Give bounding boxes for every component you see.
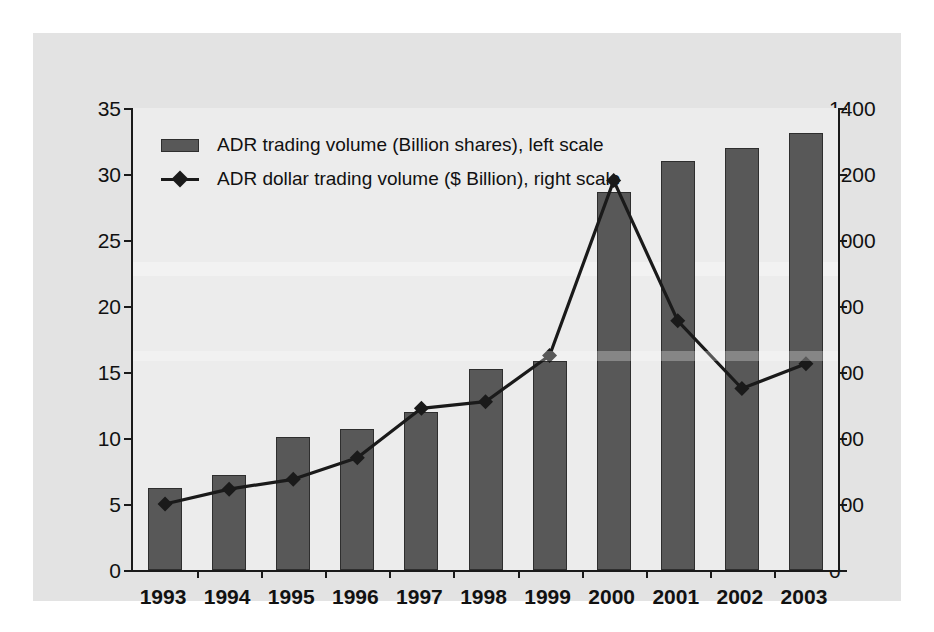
left-axis-label-5: 5: [109, 494, 121, 515]
bar-1999: [533, 361, 567, 570]
right-tick-800: [838, 306, 847, 308]
x-axis-label-2001: 2001: [652, 586, 699, 607]
left-tick-15: [124, 372, 133, 374]
x-axis-label-1997: 1997: [396, 586, 443, 607]
left-axis: 05101520253035: [33, 33, 121, 601]
left-axis-label-15: 15: [98, 362, 121, 383]
bar-2001: [661, 161, 695, 570]
bar-swatch-icon: [161, 139, 199, 152]
bar-1997: [404, 412, 438, 570]
right-tick-600: [838, 372, 847, 374]
left-tick-10: [124, 438, 133, 440]
x-axis-label-2003: 2003: [781, 586, 828, 607]
right-tick-400: [838, 438, 847, 440]
left-tick-30: [124, 174, 133, 176]
x-tick-9: [710, 570, 712, 578]
x-tick-4: [389, 570, 391, 578]
x-tick-8: [646, 570, 648, 578]
x-axis-label-1995: 1995: [268, 586, 315, 607]
legend-item-line-series: ADR dollar trading volume ($ Billion), r…: [161, 162, 620, 196]
x-tick-10: [774, 570, 776, 578]
bar-2002: [725, 148, 759, 570]
x-axis-label-1996: 1996: [332, 586, 379, 607]
right-tick-1000: [838, 240, 847, 242]
left-axis-label-35: 35: [98, 98, 121, 119]
bar-1994: [212, 475, 246, 570]
chart-panel: 05101520253035 0200400600800100012001400…: [33, 33, 901, 601]
chart-legend: ADR trading volume (Billion shares), lef…: [161, 128, 620, 196]
x-axis-label-2002: 2002: [717, 586, 764, 607]
bar-2000: [597, 192, 631, 570]
left-axis-label-25: 25: [98, 230, 121, 251]
line-diamond-swatch-icon: [161, 172, 199, 186]
right-tick-1200: [838, 174, 847, 176]
x-axis-label-1994: 1994: [204, 586, 251, 607]
left-tick-5: [124, 504, 133, 506]
x-tick-6: [518, 570, 520, 578]
left-axis-label-20: 20: [98, 296, 121, 317]
x-axis-label-2000: 2000: [588, 586, 635, 607]
x-tick-5: [453, 570, 455, 578]
x-tick-3: [325, 570, 327, 578]
bar-1998: [469, 369, 503, 570]
x-axis-label-1993: 1993: [140, 586, 187, 607]
left-tick-0: [124, 570, 133, 572]
right-tick-200: [838, 504, 847, 506]
right-tick-1400: [838, 108, 847, 110]
left-axis-label-30: 30: [98, 164, 121, 185]
x-axis-label-1999: 1999: [524, 586, 571, 607]
legend-label-bar-series: ADR trading volume (Billion shares), lef…: [217, 134, 604, 156]
x-tick-2: [261, 570, 263, 578]
left-tick-25: [124, 240, 133, 242]
bar-1993: [148, 488, 182, 570]
legend-item-bar-series: ADR trading volume (Billion shares), lef…: [161, 128, 620, 162]
left-axis-label-0: 0: [109, 560, 121, 581]
bar-1995: [276, 437, 310, 570]
left-tick-20: [124, 306, 133, 308]
left-axis-label-10: 10: [98, 428, 121, 449]
bar-2003: [789, 133, 823, 570]
x-tick-1: [197, 570, 199, 578]
left-tick-35: [124, 108, 133, 110]
x-tick-7: [582, 570, 584, 578]
right-tick-0: [838, 570, 847, 572]
chart-figure: 05101520253035 0200400600800100012001400…: [0, 0, 934, 632]
bar-1996: [340, 429, 374, 570]
x-axis-label-1998: 1998: [460, 586, 507, 607]
legend-label-line-series: ADR dollar trading volume ($ Billion), r…: [217, 168, 620, 190]
plot-area: ADR trading volume (Billion shares), lef…: [131, 108, 840, 572]
